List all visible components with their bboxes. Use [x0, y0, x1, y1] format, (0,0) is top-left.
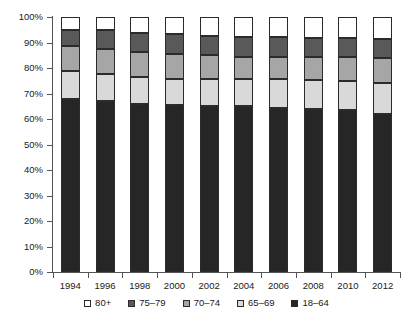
bar-segment-80+-1994 — [61, 17, 80, 30]
bar-segment-65-69-2010 — [338, 81, 357, 110]
legend-item-70–74[interactable]: 70–74 — [183, 298, 220, 308]
bar-2008 — [304, 17, 323, 272]
bar-segment-18-64-2008 — [304, 109, 323, 272]
x-tick-mark — [296, 273, 297, 278]
bar-segment-80+-2008 — [304, 17, 323, 38]
bar-1996 — [96, 17, 115, 272]
y-tick-label: 30% — [0, 191, 43, 201]
bar-2006 — [269, 17, 288, 272]
bar-segment-70-74-1998 — [130, 52, 149, 77]
legend-label: 70–74 — [194, 298, 220, 308]
x-tick-mark — [365, 273, 366, 278]
bar-segment-18-64-2004 — [234, 106, 253, 272]
bar-segment-65-69-2008 — [304, 80, 323, 109]
bar-segment-75-79-2012 — [373, 39, 392, 58]
bar-segment-80+-1996 — [96, 17, 115, 30]
legend-swatch-icon — [183, 300, 190, 307]
legend-item-65–69[interactable]: 65–69 — [237, 298, 274, 308]
bar-segment-80+-1998 — [130, 17, 149, 33]
bar-segment-65-69-2000 — [165, 79, 184, 105]
bar-segment-70-74-2012 — [373, 58, 392, 84]
bar-segment-70-74-2008 — [304, 57, 323, 80]
bar-segment-70-74-2000 — [165, 54, 184, 80]
legend-item-80+[interactable]: 80+ — [84, 298, 111, 308]
y-tick-label: 80% — [0, 63, 43, 73]
legend-swatch-icon — [84, 300, 91, 307]
bar-segment-75-79-2000 — [165, 34, 184, 54]
x-tick-mark — [227, 273, 228, 278]
legend-item-18–64[interactable]: 18–64 — [291, 298, 328, 308]
bar-segment-18-64-1996 — [96, 101, 115, 272]
legend-swatch-icon — [291, 300, 298, 307]
bar-segment-80+-2012 — [373, 17, 392, 39]
bar-segment-75-79-2006 — [269, 37, 288, 57]
bar-segment-65-69-2002 — [200, 79, 219, 106]
bar-segment-75-79-2002 — [200, 36, 219, 56]
x-tick-mark — [157, 273, 158, 278]
bar-segment-65-69-2004 — [234, 79, 253, 106]
stacked-bar-chart: 0%10%20%30%40%50%60%70%80%90%100% 199419… — [0, 0, 413, 325]
y-tick-label: 10% — [0, 242, 43, 252]
bar-segment-80+-2004 — [234, 17, 253, 37]
bar-segment-80+-2010 — [338, 17, 357, 38]
bar-segment-18-64-2012 — [373, 114, 392, 272]
bar-1994 — [61, 17, 80, 272]
y-tick-label: 90% — [0, 38, 43, 48]
bar-1998 — [130, 17, 149, 272]
bar-segment-80+-2002 — [200, 17, 219, 36]
x-tick-mark — [400, 273, 401, 278]
bar-2012 — [373, 17, 392, 272]
y-tick-label: 20% — [0, 216, 43, 226]
bar-segment-80+-2006 — [269, 17, 288, 37]
legend-swatch-icon — [128, 300, 135, 307]
x-tick-label: 2012 — [363, 281, 403, 291]
x-tick-mark — [53, 273, 54, 278]
x-tick-mark — [122, 273, 123, 278]
y-tick-label: 60% — [0, 114, 43, 124]
bar-segment-65-69-2012 — [373, 83, 392, 114]
bar-segment-70-74-1994 — [61, 46, 80, 71]
legend-swatch-icon — [237, 300, 244, 307]
bar-segment-65-69-1998 — [130, 77, 149, 104]
bar-segment-80+-2000 — [165, 17, 184, 34]
x-tick-mark — [261, 273, 262, 278]
bar-segment-75-79-1996 — [96, 30, 115, 49]
bar-2004 — [234, 17, 253, 272]
plot-area — [53, 17, 400, 272]
y-tick-label: 0% — [0, 267, 43, 277]
bar-2002 — [200, 17, 219, 272]
bar-segment-75-79-2004 — [234, 37, 253, 57]
bar-segment-18-64-2002 — [200, 106, 219, 272]
chart-legend: 80+75–7970–7465–6918–64 — [0, 298, 413, 308]
bar-segment-75-79-2010 — [338, 38, 357, 57]
bar-segment-70-74-2010 — [338, 57, 357, 80]
bar-segment-75-79-1994 — [61, 30, 80, 46]
bar-segment-70-74-2006 — [269, 57, 288, 79]
bar-segment-75-79-1998 — [130, 33, 149, 52]
bar-segment-70-74-1996 — [96, 49, 115, 75]
legend-label: 80+ — [95, 298, 111, 308]
bar-segment-65-69-1996 — [96, 74, 115, 100]
bar-segment-70-74-2002 — [200, 55, 219, 79]
x-tick-mark — [88, 273, 89, 278]
y-tick-label: 70% — [0, 89, 43, 99]
y-tick-label: 100% — [0, 12, 43, 22]
legend-label: 75–79 — [139, 298, 165, 308]
y-tick-label: 50% — [0, 140, 43, 150]
bar-segment-70-74-2004 — [234, 57, 253, 80]
bar-segment-75-79-2008 — [304, 38, 323, 57]
bar-segment-18-64-1994 — [61, 99, 80, 272]
legend-label: 18–64 — [302, 298, 328, 308]
bar-segment-18-64-1998 — [130, 104, 149, 272]
bar-segment-65-69-2006 — [269, 79, 288, 107]
bar-segment-18-64-2010 — [338, 110, 357, 272]
bar-segment-65-69-1994 — [61, 71, 80, 99]
y-tick-label: 40% — [0, 165, 43, 175]
x-tick-mark — [331, 273, 332, 278]
x-tick-mark — [192, 273, 193, 278]
bar-2000 — [165, 17, 184, 272]
legend-label: 65–69 — [248, 298, 274, 308]
bar-segment-18-64-2000 — [165, 105, 184, 272]
bar-2010 — [338, 17, 357, 272]
legend-item-75–79[interactable]: 75–79 — [128, 298, 165, 308]
